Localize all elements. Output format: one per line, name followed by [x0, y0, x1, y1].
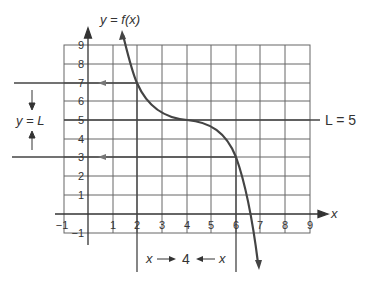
svg-text:2: 2 — [134, 219, 140, 231]
x-tick-labels: −1 1 2 3 4 5 6 7 8 9 — [56, 219, 313, 231]
arrow-left-y3-icon — [98, 154, 106, 160]
arrow-right-icon — [169, 256, 176, 262]
y-equals-L-label: y = L — [15, 113, 45, 128]
curve-arrow-down-icon — [255, 260, 262, 270]
arrow-left-icon — [196, 256, 203, 262]
reference-lines — [12, 83, 320, 272]
svg-text:1: 1 — [110, 219, 116, 231]
grid — [64, 45, 310, 233]
svg-text:−1: −1 — [56, 219, 69, 231]
svg-text:4: 4 — [182, 251, 190, 267]
svg-text:7: 7 — [257, 219, 263, 231]
arrow-up-icon — [29, 131, 35, 138]
svg-text:8: 8 — [282, 219, 288, 231]
svg-text:−1: −1 — [71, 227, 84, 239]
svg-text:6: 6 — [78, 95, 84, 107]
svg-text:8: 8 — [78, 58, 84, 70]
x-approaches-4: x 4 x — [145, 251, 226, 267]
svg-text:x: x — [145, 251, 153, 266]
limit-diagram: y = f(x) x L = 5 y = L 9 8 7 6 5 4 3 2 1… — [0, 0, 376, 281]
x-axis-label: x — [330, 206, 338, 221]
svg-text:6: 6 — [233, 219, 239, 231]
arrow-left-y7-icon — [98, 80, 106, 86]
svg-text:5: 5 — [208, 219, 214, 231]
svg-text:2: 2 — [78, 170, 84, 182]
y-axis-arrow-icon — [85, 28, 92, 38]
svg-text:3: 3 — [159, 219, 165, 231]
curve-arrow-up-icon — [119, 30, 126, 40]
x-axis-arrow-icon — [318, 211, 328, 218]
svg-text:5: 5 — [78, 114, 84, 126]
svg-text:9: 9 — [307, 219, 313, 231]
svg-text:4: 4 — [184, 219, 190, 231]
function-label: y = f(x) — [99, 12, 140, 27]
axes — [55, 28, 328, 245]
svg-text:1: 1 — [78, 189, 84, 201]
svg-text:x: x — [218, 251, 226, 266]
svg-text:4: 4 — [78, 133, 84, 145]
limit-label: L = 5 — [325, 112, 356, 128]
svg-text:3: 3 — [78, 151, 84, 163]
svg-text:7: 7 — [78, 77, 84, 89]
arrow-down-icon — [29, 103, 35, 110]
svg-text:9: 9 — [78, 39, 84, 51]
